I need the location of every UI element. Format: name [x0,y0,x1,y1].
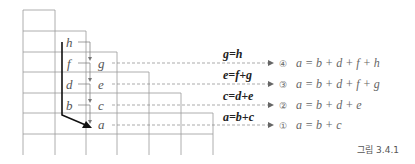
staircase-grid [23,10,213,155]
index-4: ④ [279,59,287,69]
var-d: d [66,77,73,92]
index-2: ② [279,101,287,111]
grid-diagram: h f d b g e c a g=h e=f+g c=d+e a=b+c ④ … [0,0,415,164]
connector-lines [78,42,90,120]
figure-caption: 그림 3.4.1 [357,143,399,156]
var-e: e [98,77,104,92]
rule-equation-3: e=f+g [223,68,252,82]
index-1: ① [279,121,287,131]
var-f: f [67,56,73,71]
var-c: c [98,98,104,113]
rule-equation-2: c=d+e [223,89,254,103]
rule-equation-4: g=h [222,47,243,61]
var-g: g [98,56,105,71]
var-h: h [66,35,73,50]
result-equation-2: a = b + d + e [296,98,362,112]
index-3: ③ [279,80,287,90]
dashed-arrowheads [268,60,274,128]
var-a: a [98,117,105,132]
result-equation-1: a = b + c [296,118,342,132]
result-equation-4: a = b + d + f + h [296,56,380,70]
var-b: b [66,98,73,113]
rule-equation-1: a=b+c [223,110,255,124]
result-equation-3: a = b + d + f + g [296,77,380,91]
